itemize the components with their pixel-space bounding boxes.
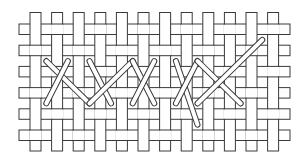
weave-crossing-over (94, 24, 106, 35)
weave-crossing-over (116, 88, 128, 99)
weave-crossing-over (51, 109, 63, 120)
weave-crossing-over (51, 24, 63, 35)
weave-crossing-over (267, 66, 279, 77)
weave-crossing-over (116, 45, 128, 56)
weave-diagram: Woven canvas with herringbone cross stit… (0, 0, 304, 167)
weave-crossing-over (224, 109, 236, 120)
weave-crossing-over (267, 109, 279, 120)
weave-crossing-over (138, 24, 150, 35)
canvas-diagram: Woven canvas with herringbone cross stit… (0, 0, 304, 167)
weave-crossing-over (30, 130, 42, 141)
weave-crossing-over (138, 109, 150, 120)
weave-crossing-over (73, 130, 85, 141)
weave-crossing-over (116, 130, 128, 141)
weave-crossing-over (246, 130, 258, 141)
weave-crossing-over (30, 88, 42, 99)
weave-crossing-over (267, 24, 279, 35)
weave-crossing-over (202, 130, 214, 141)
weave-crossing-over (224, 24, 236, 35)
weave-crossing-over (159, 88, 171, 99)
weave-crossing-over (202, 45, 214, 56)
weave-crossing-over (246, 88, 258, 99)
weave-crossing-over (73, 45, 85, 56)
weave-crossing-over (94, 109, 106, 120)
weave-crossing-over (181, 24, 193, 35)
weave-crossing-over (30, 45, 42, 56)
weave-crossing-over (159, 45, 171, 56)
weave-crossing-over (159, 130, 171, 141)
